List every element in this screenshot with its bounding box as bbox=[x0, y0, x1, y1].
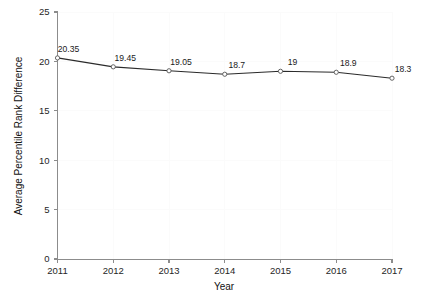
data-point-marker bbox=[55, 56, 59, 60]
data-point-marker bbox=[223, 72, 227, 76]
x-axis-tick-label: 2014 bbox=[214, 265, 235, 276]
data-point-marker bbox=[167, 69, 171, 73]
y-axis-tick-label: 20 bbox=[39, 56, 50, 67]
y-axis-tick-label: 0 bbox=[44, 253, 49, 264]
x-axis-tick-label: 2015 bbox=[270, 265, 291, 276]
chart-container: 0510152025 2011201220132014201520162017 … bbox=[0, 0, 421, 302]
x-axis-tick-label: 2011 bbox=[47, 265, 67, 276]
data-point-label: 19 bbox=[288, 57, 298, 67]
x-axis-tick-label: 2016 bbox=[326, 265, 347, 276]
y-axis-tick-label: 15 bbox=[39, 105, 50, 116]
data-point-label: 18.7 bbox=[228, 60, 245, 70]
data-point-marker bbox=[334, 70, 338, 74]
x-axis-tick-label: 2012 bbox=[103, 265, 124, 276]
y-axis-tick-label: 25 bbox=[39, 6, 50, 17]
x-axis-title: Year bbox=[214, 281, 235, 292]
data-point-label: 19.45 bbox=[114, 53, 136, 63]
line-chart: 0510152025 2011201220132014201520162017 … bbox=[0, 0, 421, 302]
x-axis-tick-label: 2013 bbox=[158, 265, 179, 276]
data-point-marker bbox=[278, 69, 282, 73]
data-point-marker bbox=[111, 65, 115, 69]
x-axis-tick-label: 2017 bbox=[381, 265, 402, 276]
data-point-label: 18.9 bbox=[340, 58, 357, 68]
y-axis-tick-label: 10 bbox=[39, 155, 50, 166]
y-axis-tick-label: 5 bbox=[44, 204, 49, 215]
y-axis-title: Average Percentile Rank Difference bbox=[13, 56, 24, 215]
data-point-marker bbox=[390, 76, 394, 80]
data-point-label: 20.35 bbox=[58, 44, 80, 54]
data-point-label: 18.3 bbox=[395, 64, 412, 74]
data-point-label: 19.05 bbox=[170, 57, 192, 67]
